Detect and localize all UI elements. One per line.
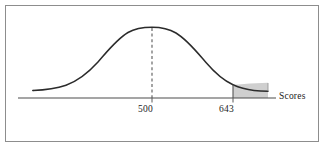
x-tick-label-mean: 500 (138, 104, 153, 114)
x-tick-label-cutoff: 643 (219, 104, 234, 114)
figure-container: 500 643 Scores (0, 0, 328, 151)
x-axis-title: Scores (279, 91, 306, 101)
bell-curve-path (33, 27, 268, 91)
distribution-plot (0, 0, 328, 151)
